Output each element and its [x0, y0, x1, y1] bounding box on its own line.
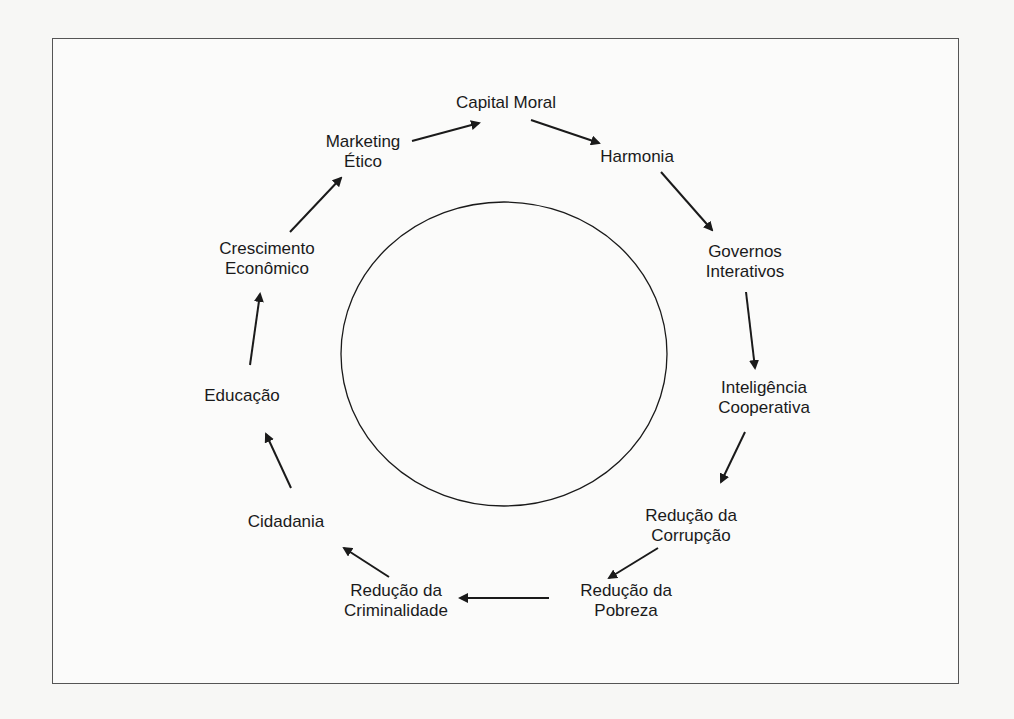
node-label-line1: Redução da — [344, 581, 448, 601]
node-label-line1: Governos — [706, 242, 784, 262]
node-label-line2: Criminalidade — [344, 601, 448, 621]
edge-crescimento-to-marketing — [290, 178, 341, 232]
node-label-line1: Inteligência — [718, 378, 810, 398]
node-inteligencia-cooperativa: Inteligência Cooperativa — [718, 378, 810, 418]
edge-educacao-to-crescimento — [250, 294, 260, 365]
edge-corrupcao-to-pobreza — [609, 548, 658, 578]
edge-governos-to-inteligencia — [746, 292, 755, 368]
edge-criminalidade-to-cidadania — [344, 548, 389, 577]
node-label-line1: Redução da — [645, 506, 737, 526]
node-governos-interativos: Governos Interativos — [706, 242, 784, 282]
node-label-line1: Redução da — [580, 581, 672, 601]
edge-capital-to-harmonia — [531, 120, 599, 143]
node-crescimento-economico: Crescimento Econômico — [219, 239, 314, 279]
edge-harmonia-to-governos — [661, 172, 712, 230]
edge-inteligencia-to-corrupcao — [721, 432, 745, 482]
node-educacao: Educação — [204, 386, 280, 406]
node-label-line2: Econômico — [219, 259, 314, 279]
node-label-line2: Interativos — [706, 262, 784, 282]
node-reducao-criminalidade: Redução da Criminalidade — [344, 581, 448, 621]
node-label: Cidadania — [248, 512, 325, 532]
node-label-line2: Ético — [326, 152, 401, 172]
node-harmonia: Harmonia — [600, 147, 674, 167]
node-reducao-pobreza: Redução da Pobreza — [580, 581, 672, 621]
edge-marketing-to-capital — [412, 123, 479, 141]
center-circle — [341, 202, 667, 506]
node-label: Capital Moral — [456, 93, 556, 113]
node-label-line2: Pobreza — [580, 601, 672, 621]
node-label-line1: Crescimento — [219, 239, 314, 259]
node-label-line1: Marketing — [326, 132, 401, 152]
node-label-line2: Cooperativa — [718, 398, 810, 418]
edge-cidadania-to-educacao — [266, 434, 291, 488]
node-cidadania: Cidadania — [248, 512, 325, 532]
node-reducao-corrupcao: Redução da Corrupção — [645, 506, 737, 546]
node-capital-moral: Capital Moral — [456, 93, 556, 113]
node-marketing-etico: Marketing Ético — [326, 132, 401, 172]
node-label: Educação — [204, 386, 280, 406]
node-label: Harmonia — [600, 147, 674, 167]
node-label-line2: Corrupção — [645, 526, 737, 546]
